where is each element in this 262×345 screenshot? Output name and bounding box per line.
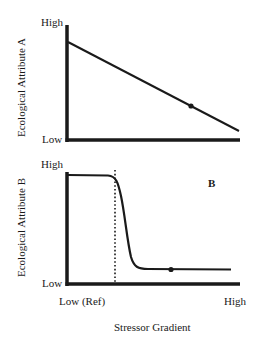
bottom-y-low-label: Low xyxy=(42,278,62,289)
bottom-y-high-label: High xyxy=(41,159,63,170)
top-y-low-label: Low xyxy=(42,134,62,145)
top-y-high-label: High xyxy=(41,17,63,28)
chart-canvas xyxy=(0,0,262,345)
bottom-marker-dot xyxy=(168,267,173,272)
bottom-threshold-curve xyxy=(68,175,231,270)
bottom-y-axis-title: Ecological Attribute B xyxy=(15,178,27,277)
x-low-ref-label: Low (Ref) xyxy=(59,296,105,307)
x-high-label: High xyxy=(224,296,246,307)
x-axis-title: Stressor Gradient xyxy=(114,322,191,333)
top-linear-line xyxy=(68,42,239,131)
top-y-axis-title: Ecological Attribute A xyxy=(15,38,27,137)
top-marker-dot xyxy=(188,103,193,108)
panel-label-b: B xyxy=(208,177,215,189)
